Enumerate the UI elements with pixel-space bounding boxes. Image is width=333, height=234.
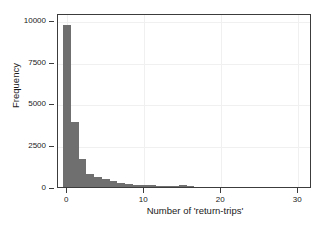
bar: [79, 159, 87, 187]
bar: [102, 179, 110, 187]
y-tick-label: 10000: [24, 17, 46, 25]
y-tick-label: 7500: [28, 59, 46, 67]
x-tick-mark: [143, 188, 144, 193]
bar: [256, 187, 264, 188]
bar: [210, 187, 218, 188]
bar: [133, 185, 141, 188]
bars-container: [58, 15, 310, 187]
bar: [148, 185, 156, 187]
bar: [248, 187, 256, 188]
y-tick-label: 5000: [28, 100, 46, 108]
bar: [233, 187, 241, 188]
bar: [125, 184, 133, 187]
bar: [156, 186, 164, 187]
bar: [63, 25, 71, 187]
bar: [163, 186, 171, 187]
bar: [117, 183, 125, 187]
y-tick-label: 2500: [28, 142, 46, 150]
bar: [225, 187, 233, 188]
bar: [264, 187, 272, 188]
bar: [302, 187, 310, 188]
x-tick-mark: [297, 188, 298, 193]
x-tick-mark: [220, 188, 221, 193]
y-tick-mark: [49, 146, 54, 147]
bar: [187, 186, 195, 187]
bar: [194, 187, 202, 188]
y-tick-mark: [49, 21, 54, 22]
bar: [94, 177, 102, 187]
bar: [202, 187, 210, 188]
x-tick-label: 20: [205, 195, 235, 204]
bar: [294, 187, 302, 188]
x-tick-label: 0: [51, 195, 81, 204]
x-axis-title: Number of 'return-trips': [0, 205, 333, 216]
x-tick-label: 30: [282, 195, 312, 204]
plot-area: [57, 14, 311, 188]
x-tick-label: 10: [128, 195, 158, 204]
bar: [240, 187, 248, 188]
y-axis-title: Frequency: [10, 36, 21, 136]
bar: [179, 185, 187, 187]
y-tick-mark: [49, 104, 54, 105]
bar: [110, 181, 118, 187]
histogram-figure: 025005000750010000 Frequency 0102030 Num…: [0, 0, 333, 234]
bar: [86, 174, 94, 187]
bar: [171, 186, 179, 187]
bar: [271, 187, 279, 188]
bar: [217, 187, 225, 188]
x-tick-mark: [66, 188, 67, 193]
bar: [140, 185, 148, 187]
y-tick-mark: [49, 63, 54, 64]
bar: [287, 187, 295, 188]
bar: [279, 187, 287, 188]
bar: [71, 122, 79, 187]
